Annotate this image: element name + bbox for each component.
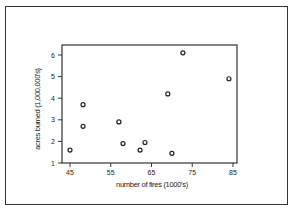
data-point <box>166 92 170 96</box>
y-tick-label: 6 <box>51 52 55 59</box>
y-tick-label: 3 <box>51 116 55 123</box>
y-tick-label: 1 <box>51 160 55 167</box>
x-tick-label: 75 <box>188 169 196 176</box>
data-point <box>81 124 85 128</box>
data-point <box>227 77 231 81</box>
data-point <box>117 120 121 124</box>
data-point <box>181 51 185 55</box>
y-axis-title: acres burned (1,000,000's) <box>33 67 42 149</box>
data-point <box>121 142 125 146</box>
x-tick-label: 85 <box>229 169 237 176</box>
data-point <box>138 148 142 152</box>
x-tick-label: 65 <box>148 169 156 176</box>
scatter-chart: 1234564555657585 number of fires (1000's… <box>0 0 295 211</box>
y-tick-label: 5 <box>51 73 55 80</box>
plot-frame <box>62 45 237 163</box>
plot-area: 1234564555657585 <box>51 45 237 176</box>
y-tick-label: 2 <box>51 138 55 145</box>
x-tick-label: 45 <box>66 169 74 176</box>
x-tick-label: 55 <box>107 169 115 176</box>
data-point <box>81 103 85 107</box>
data-point <box>143 140 147 144</box>
y-tick-label: 4 <box>51 95 55 102</box>
data-point <box>68 148 72 152</box>
data-point <box>170 151 174 155</box>
x-axis-title: number of fires (1000's) <box>116 180 189 189</box>
